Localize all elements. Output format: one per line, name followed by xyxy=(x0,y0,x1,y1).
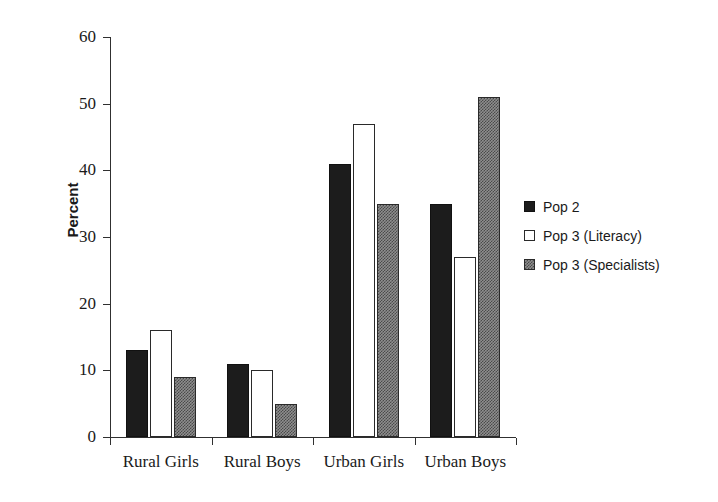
bar xyxy=(275,404,297,437)
bar xyxy=(251,370,273,437)
bar xyxy=(150,330,172,437)
bar-chart: Percent 0102030405060 Rural GirlsRural B… xyxy=(0,0,718,502)
bar xyxy=(353,124,375,437)
legend-item: Pop 3 (Specialists) xyxy=(524,250,660,279)
chart-legend: Pop 2Pop 3 (Literacy)Pop 3 (Specialists) xyxy=(524,192,660,279)
legend-label: Pop 2 xyxy=(543,199,580,215)
x-tick-mark xyxy=(313,438,314,445)
x-tick-mark xyxy=(212,438,213,445)
x-category-label: Rural Boys xyxy=(212,452,314,472)
x-category-label: Urban Girls xyxy=(313,452,415,472)
y-tick-label-50: 50 xyxy=(56,95,96,112)
bar xyxy=(329,164,351,437)
x-tick-mark xyxy=(415,438,416,445)
legend-swatch-icon xyxy=(524,230,535,241)
legend-label: Pop 3 (Specialists) xyxy=(543,257,660,273)
x-tick-mark xyxy=(516,438,517,445)
x-category-label: Rural Girls xyxy=(110,452,212,472)
y-tick-label-60: 60 xyxy=(56,28,96,45)
bar xyxy=(478,97,500,437)
bar xyxy=(430,204,452,437)
y-tick-label-30: 30 xyxy=(56,228,96,245)
legend-swatch-icon xyxy=(524,259,535,270)
legend-swatch-icon xyxy=(524,201,535,212)
bar xyxy=(377,204,399,437)
y-tick-label-0: 0 xyxy=(56,428,96,445)
bar xyxy=(227,364,249,437)
y-tick-label-40: 40 xyxy=(56,161,96,178)
legend-label: Pop 3 (Literacy) xyxy=(543,228,642,244)
x-tick-mark xyxy=(110,438,111,445)
y-tick-label-20: 20 xyxy=(56,295,96,312)
bar xyxy=(126,350,148,437)
x-category-label: Urban Boys xyxy=(415,452,517,472)
y-tick-label-10: 10 xyxy=(56,361,96,378)
bar xyxy=(174,377,196,437)
legend-item: Pop 3 (Literacy) xyxy=(524,221,660,250)
legend-item: Pop 2 xyxy=(524,192,660,221)
plot-area xyxy=(110,37,516,437)
bar xyxy=(454,257,476,437)
